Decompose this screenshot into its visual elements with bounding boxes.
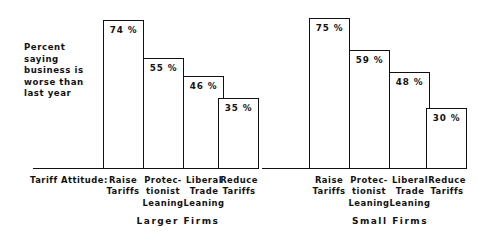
bar-value-label: 59 %: [350, 55, 389, 65]
bar-small-reduce-tariffs: 30 %: [426, 108, 467, 168]
group-caption-small-firms: Small Firms: [330, 216, 450, 226]
baseline-larger-firms: [33, 168, 259, 169]
bar-larger-raise-tariffs: 74 %: [103, 20, 144, 168]
bar-small-protectionist-leaning: 59 %: [349, 50, 390, 168]
y-axis-caption: Percent saying business is worse than la…: [24, 42, 102, 100]
x-axis-caption: Tariff Attitude:: [30, 175, 108, 185]
group-caption-larger-firms: Larger Firms: [118, 216, 238, 226]
bar-chart: Percent saying business is worse than la…: [0, 0, 493, 245]
baseline-small-firms: [262, 168, 467, 169]
bar-value-label: 48 %: [390, 77, 429, 87]
bar-larger-protectionist-leaning: 55 %: [143, 58, 184, 168]
bar-value-label: 46 %: [184, 81, 223, 91]
category-label-small-reduce-tariffs: Reduce Tariffs: [424, 175, 470, 198]
bar-value-label: 30 %: [427, 113, 466, 123]
bar-value-label: 55 %: [144, 63, 183, 73]
bar-small-raise-tariffs: 75 %: [309, 18, 350, 168]
category-label-larger-reduce-tariffs: Reduce Tariffs: [216, 175, 262, 198]
bar-value-label: 35 %: [219, 103, 258, 113]
bar-value-label: 74 %: [104, 25, 143, 35]
bar-value-label: 75 %: [310, 23, 349, 33]
bar-small-liberal-trade-leaning: 48 %: [389, 72, 430, 168]
bar-larger-reduce-tariffs: 35 %: [218, 98, 259, 168]
